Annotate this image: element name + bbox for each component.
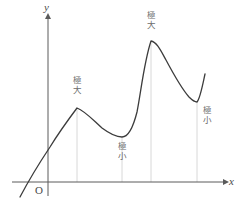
label-minimum-1: 極 小	[115, 142, 129, 161]
label-minimum-1-char-2: 小	[115, 152, 129, 162]
label-maximum-1: 極 大	[70, 76, 84, 95]
label-maximum-1-char-2: 大	[70, 86, 84, 96]
axes	[12, 18, 224, 196]
y-axis-label: y	[44, 2, 49, 13]
label-minimum-2: 極 小	[200, 106, 214, 125]
origin-label: O	[35, 185, 43, 196]
label-minimum-2-char-2: 小	[200, 116, 214, 126]
x-axis-label: x	[229, 176, 234, 187]
label-maximum-2: 極 大	[144, 11, 158, 30]
graph-figure: y x O 極 大 極 小 極 大 極 小	[0, 0, 247, 219]
label-maximum-2-char-2: 大	[144, 21, 158, 31]
